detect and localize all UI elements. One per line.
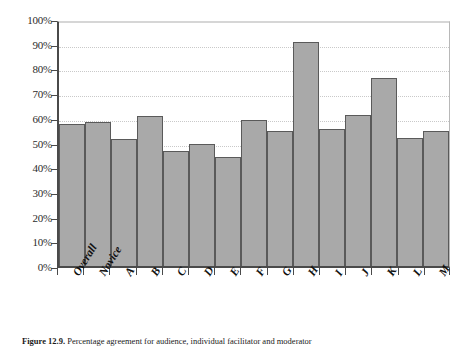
plot-area — [57, 21, 450, 268]
y-axis-tick-label: 100% — [8, 15, 52, 26]
y-axis-tick-label: 10% — [8, 237, 52, 248]
y-axis-tick-label: 90% — [8, 40, 52, 51]
bar — [319, 129, 345, 266]
caption-number: Figure 12.9. — [22, 336, 65, 346]
bar — [241, 120, 267, 266]
bar — [423, 131, 449, 266]
bar-chart: 0%10%20%30%40%50%60%70%80%90%100% Overal… — [0, 0, 455, 330]
bar — [267, 131, 293, 266]
bar — [215, 157, 241, 266]
bar — [59, 124, 85, 266]
figure-container: 0%10%20%30%40%50%60%70%80%90%100% Overal… — [0, 0, 455, 348]
y-axis-tick-label: 40% — [8, 163, 52, 174]
bar-series — [59, 22, 449, 266]
y-axis-label-group: 0%10%20%30%40%50%60%70%80%90%100% — [0, 0, 52, 330]
y-axis-tick-label: 60% — [8, 114, 52, 125]
x-axis-tick-label: M — [437, 263, 452, 278]
y-axis-tick-label: 70% — [8, 89, 52, 100]
y-axis-tick-label: 50% — [8, 139, 52, 150]
bar — [293, 42, 319, 266]
x-axis-label-group: OverallNoviceABCDEFGHIJKLM — [57, 272, 450, 330]
y-axis-tick-label: 20% — [8, 213, 52, 224]
y-axis-tick-label: 30% — [8, 188, 52, 199]
bar — [163, 151, 189, 266]
bar — [137, 116, 163, 266]
figure-caption: Figure 12.9. Percentage agreement for au… — [22, 336, 442, 347]
bar — [397, 138, 423, 266]
bar — [189, 144, 215, 266]
bar — [371, 78, 397, 266]
bar — [345, 115, 371, 266]
y-axis-tick-label: 80% — [8, 64, 52, 75]
y-axis-tick-label: 0% — [8, 262, 52, 273]
caption-text: Percentage agreement for audience, indiv… — [65, 336, 312, 346]
